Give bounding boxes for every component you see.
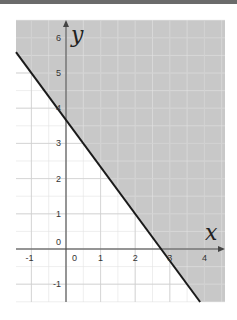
y-tick-label: 2 xyxy=(56,174,61,184)
y-tick-label: 1 xyxy=(56,209,61,219)
y-tick-label: -1 xyxy=(53,279,61,289)
x-tick-label: 2 xyxy=(133,253,138,263)
x-tick-label: 1 xyxy=(98,253,103,263)
x-tick-label: 3 xyxy=(167,253,172,263)
y-axis-label: y xyxy=(70,22,84,47)
x-tick-label: 4 xyxy=(202,253,207,263)
y-tick-label: 4 xyxy=(56,103,61,113)
y-tick-label: 3 xyxy=(56,138,61,148)
x-axis-label: x xyxy=(205,220,218,245)
y-tick-label: 0 xyxy=(56,237,61,247)
y-tick-label: 6 xyxy=(56,33,61,43)
inequality-graph: -112340-10123456xy xyxy=(0,0,237,320)
origin-label: 0 xyxy=(72,253,77,263)
x-tick-label: -1 xyxy=(25,253,33,263)
y-tick-label: 5 xyxy=(56,68,61,78)
